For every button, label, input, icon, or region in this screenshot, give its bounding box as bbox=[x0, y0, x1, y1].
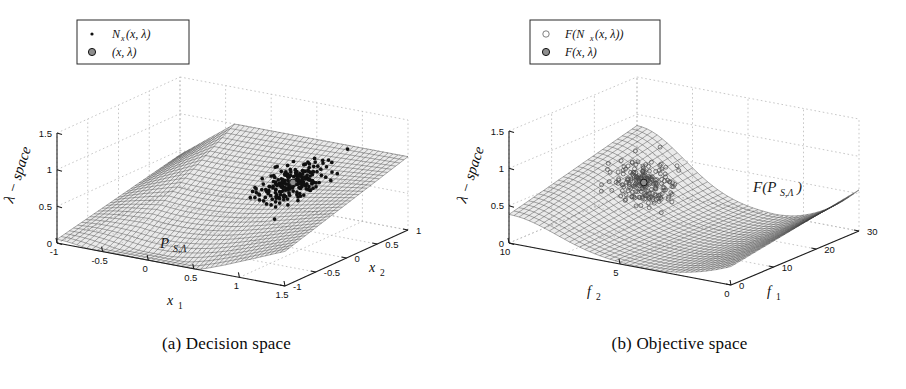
x-axis-title-subscript: 1 bbox=[178, 301, 183, 311]
surface-annotation: P bbox=[159, 235, 169, 251]
caption-panel-b: (b) Objective space bbox=[453, 334, 906, 354]
scatter-point bbox=[283, 171, 287, 175]
legend-label-point: (x, λ) bbox=[112, 45, 137, 59]
scatter-point bbox=[311, 179, 315, 183]
center-point-marker bbox=[290, 179, 297, 186]
f1-axis-title: f bbox=[767, 284, 773, 299]
z-tick-label: 0.5 bbox=[491, 200, 504, 211]
z-tick-label: 1.5 bbox=[39, 128, 52, 139]
scatter-point bbox=[308, 174, 312, 178]
scatter-point bbox=[274, 200, 278, 204]
y-tick bbox=[403, 229, 408, 230]
scatter-point bbox=[279, 169, 283, 173]
legend-marker-small-dot bbox=[90, 32, 93, 35]
z-tick bbox=[509, 243, 514, 245]
scatter-point bbox=[280, 190, 284, 194]
scatter-point bbox=[308, 188, 312, 192]
scatter-point bbox=[312, 164, 316, 168]
scatter-point bbox=[303, 170, 307, 174]
z-tick bbox=[57, 206, 62, 208]
z-tick bbox=[57, 133, 62, 135]
scatter-point bbox=[319, 167, 323, 171]
scatter-point bbox=[257, 192, 261, 196]
scatter-point bbox=[254, 187, 258, 191]
scatter-point bbox=[273, 217, 277, 221]
legend-label-mapped-neighbourhood-args: (x, λ)) bbox=[595, 27, 624, 41]
scatter-point bbox=[264, 188, 268, 192]
x-tick bbox=[284, 281, 285, 286]
f1-tick-label: 20 bbox=[824, 244, 835, 255]
f2-axis-title-subscript: 2 bbox=[596, 292, 601, 302]
f1-tick-label: 10 bbox=[782, 262, 793, 273]
scatter-point bbox=[291, 189, 295, 193]
scatter-point bbox=[265, 202, 269, 206]
scatter-point bbox=[314, 181, 318, 185]
scatter-point bbox=[258, 198, 262, 202]
scatter-point bbox=[267, 184, 271, 188]
scatter-point bbox=[263, 196, 267, 200]
y-axis-title-subscript: 2 bbox=[380, 268, 385, 278]
panel-objective-space: 00.511.510500102030λ − spacef2f1F(PS,Λ)F… bbox=[453, 0, 906, 389]
f2-tick-label: 0 bbox=[724, 288, 729, 299]
scatter-point bbox=[269, 174, 273, 178]
y-tick-label: 1 bbox=[416, 225, 421, 236]
f2-axis-title: f bbox=[587, 284, 593, 299]
scatter-point bbox=[278, 201, 282, 205]
scatter-point bbox=[280, 183, 284, 187]
z-tick-label: 1 bbox=[47, 164, 52, 175]
scatter-point bbox=[260, 188, 264, 192]
f1-tick-label: 30 bbox=[867, 226, 878, 237]
f1-tick bbox=[726, 284, 731, 285]
x-tick-label: -1 bbox=[50, 246, 58, 257]
scatter-point bbox=[286, 203, 290, 207]
f1-axis-title-subscript: 1 bbox=[776, 292, 781, 302]
scatter-point bbox=[248, 196, 252, 200]
scatter-point bbox=[262, 199, 266, 203]
z-axis-title: λ − space bbox=[0, 144, 34, 206]
z-tick-label: 0.5 bbox=[39, 201, 52, 212]
scatter-point bbox=[269, 203, 273, 207]
scatter-point bbox=[307, 166, 311, 170]
scatter-point bbox=[292, 160, 296, 164]
z-tick-label: 1.5 bbox=[491, 126, 504, 137]
x-tick-label: 1.5 bbox=[275, 289, 288, 300]
panel-decision-space: 00.511.5-1-0.500.511.510.50-0.5-1λ − spa… bbox=[0, 0, 453, 389]
f2-tick bbox=[730, 280, 731, 285]
figure-container: 00.511.5-1-0.500.511.510.50-0.5-1λ − spa… bbox=[0, 0, 906, 389]
y-tick-label: -0.5 bbox=[324, 267, 340, 278]
caption-panel-a: (a) Decision space bbox=[0, 334, 453, 354]
scatter-point bbox=[346, 147, 350, 151]
y-tick-label: 0 bbox=[355, 253, 360, 264]
scatter-point bbox=[316, 164, 320, 168]
scatter-point bbox=[274, 183, 278, 187]
legend-label-mapped-neighbourhood-subscript: x bbox=[589, 34, 594, 43]
legend-label-neighbourhood-subscript: x bbox=[120, 34, 125, 43]
scatter-point bbox=[251, 190, 255, 194]
y-tick bbox=[372, 243, 377, 244]
scatter-point bbox=[288, 186, 292, 190]
center-point-marker bbox=[641, 179, 648, 186]
scatter-point bbox=[321, 161, 325, 165]
grid-line bbox=[57, 77, 180, 133]
f1-tick bbox=[769, 266, 774, 267]
scatter-point bbox=[270, 197, 274, 201]
y-tick-label: -1 bbox=[293, 281, 301, 292]
legend-label-mapped-point: F(x, λ) bbox=[564, 45, 597, 59]
scatter-point bbox=[330, 170, 334, 174]
scatter-point bbox=[313, 160, 317, 164]
scatter-point bbox=[315, 170, 319, 174]
x-tick-label: 0.5 bbox=[184, 272, 197, 283]
surface-annotation-subscript: S,Λ bbox=[780, 187, 794, 198]
legend-layer: Nx(x, λ)(x, λ) bbox=[77, 20, 189, 64]
scatter-point bbox=[271, 186, 275, 190]
scatter-point bbox=[267, 190, 271, 194]
scatter-point bbox=[296, 174, 300, 178]
x-tick-label: 0 bbox=[143, 263, 148, 274]
scatter-point bbox=[274, 191, 278, 195]
z-tick bbox=[57, 243, 62, 245]
scatter-point bbox=[329, 179, 333, 183]
scatter-point bbox=[313, 157, 317, 161]
f2-tick-label: 10 bbox=[500, 246, 511, 257]
z-axis-title: λ − space bbox=[453, 144, 487, 206]
y-tick-label: 0.5 bbox=[385, 239, 398, 250]
